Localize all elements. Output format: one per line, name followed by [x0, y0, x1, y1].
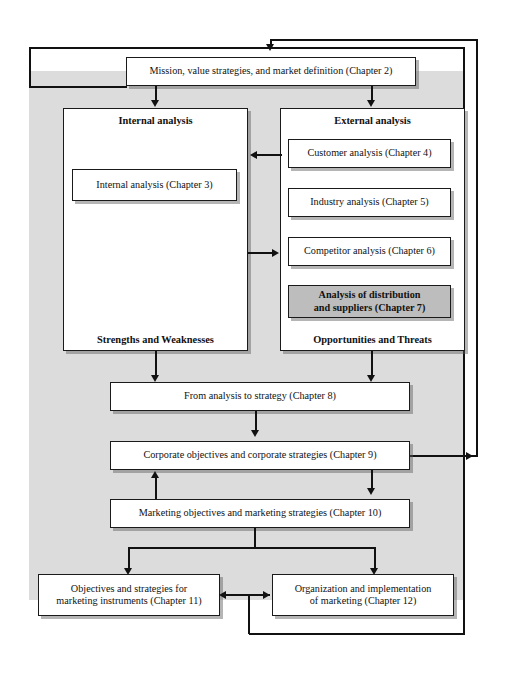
- panel-external-analysis-footer: Opportunities and Threats: [281, 334, 464, 345]
- panel-external-analysis-title: External analysis: [281, 115, 464, 126]
- node-mission-label: Mission, value strategies, and market de…: [149, 65, 392, 77]
- panel-internal-analysis[interactable]: Internal analysis Strengths and Weakness…: [63, 108, 248, 351]
- ch10-split-bar: [128, 547, 376, 549]
- node-industry-analysis-chapter-5[interactable]: Industry analysis (Chapter 5): [288, 188, 451, 217]
- arrow-ch8-to-ch9-head: [251, 430, 259, 437]
- arrow-external-to-ch8-line: [371, 351, 373, 377]
- outer-loop-top-segment: [270, 39, 478, 41]
- inner-loop-ch12-riser: [248, 596, 250, 634]
- node-mission-chapter-2[interactable]: Mission, value strategies, and market de…: [126, 57, 416, 86]
- node-organization-implementation-chapter-12[interactable]: Organization and implementation of marke…: [272, 574, 454, 616]
- node-customer-analysis-chapter-4[interactable]: Customer analysis (Chapter 4): [288, 139, 451, 168]
- node-organization-implementation-line1: Organization and implementation: [295, 583, 432, 595]
- arrow-internal-to-ch8-head: [151, 375, 159, 382]
- arrow-external-to-ch8-head: [367, 375, 375, 382]
- inner-loop-bottom-segment: [249, 633, 465, 635]
- node-internal-analysis-chapter-3-label: Internal analysis (Chapter 3): [96, 179, 212, 191]
- node-competitor-analysis-chapter-6[interactable]: Competitor analysis (Chapter 6): [288, 237, 451, 266]
- outer-loop-ch9-arrowhead: [466, 452, 473, 460]
- node-industry-analysis-label: Industry analysis (Chapter 5): [310, 196, 429, 208]
- panel-internal-analysis-title: Internal analysis: [64, 115, 247, 126]
- node-competitor-analysis-label: Competitor analysis (Chapter 6): [304, 245, 435, 257]
- ch10-split-stem: [254, 528, 256, 548]
- arrow-ch9-to-ch10-line: [371, 470, 373, 490]
- node-marketing-instruments-line1: Objectives and strategies for: [71, 583, 187, 595]
- node-distribution-suppliers-line2: and suppliers (Chapter 7): [314, 302, 426, 314]
- inner-loop-top-segment: [29, 47, 465, 49]
- arrow-external-to-internal-head: [250, 151, 257, 159]
- arrow-internal-to-ch8-line: [155, 351, 157, 377]
- node-organization-implementation-line2: of marketing (Chapter 12): [310, 595, 417, 607]
- node-from-analysis-to-strategy-chapter-8[interactable]: From analysis to strategy (Chapter 8): [110, 382, 410, 411]
- node-corporate-objectives-label: Corporate objectives and corporate strat…: [143, 449, 376, 461]
- node-customer-analysis-label: Customer analysis (Chapter 4): [307, 147, 431, 159]
- outer-loop-right-segment: [476, 39, 478, 456]
- inner-loop-mission-feed: [29, 86, 127, 88]
- node-distribution-suppliers-line1: Analysis of distribution: [319, 289, 421, 301]
- inner-loop-left-segment: [29, 47, 31, 88]
- arrow-internal-to-external-head: [272, 249, 279, 257]
- node-internal-analysis-chapter-3[interactable]: Internal analysis (Chapter 3): [72, 169, 237, 201]
- arrow-ch10-to-ch9-head: [151, 471, 159, 478]
- node-marketing-instruments-line2: marketing instruments (Chapter 11): [56, 595, 201, 607]
- panel-internal-analysis-footer: Strengths and Weaknesses: [64, 334, 247, 345]
- diagram-canvas: Mission, value strategies, and market de…: [0, 0, 513, 675]
- arrow-ch11-ch12-right-head: [263, 591, 270, 599]
- arrow-ch11-ch12-left-head: [219, 591, 226, 599]
- node-from-analysis-to-strategy-label: From analysis to strategy (Chapter 8): [184, 390, 336, 402]
- node-marketing-objectives-label: Marketing objectives and marketing strat…: [139, 507, 382, 519]
- node-distribution-suppliers-chapter-7[interactable]: Analysis of distribution and suppliers (…: [288, 285, 451, 318]
- node-corporate-objectives-chapter-9[interactable]: Corporate objectives and corporate strat…: [110, 441, 410, 470]
- node-marketing-objectives-chapter-10[interactable]: Marketing objectives and marketing strat…: [110, 499, 410, 528]
- arrow-ch9-to-ch10-head: [367, 488, 375, 495]
- arrow-ch10-to-ch9-line: [155, 477, 157, 499]
- arrow-mission-to-external-head: [367, 100, 375, 107]
- arrow-mission-to-internal-head: [151, 100, 159, 107]
- node-marketing-instruments-chapter-11[interactable]: Objectives and strategies for marketing …: [38, 574, 220, 616]
- arrow-external-to-internal-line: [256, 154, 282, 156]
- arrow-internal-to-external-line: [248, 252, 274, 254]
